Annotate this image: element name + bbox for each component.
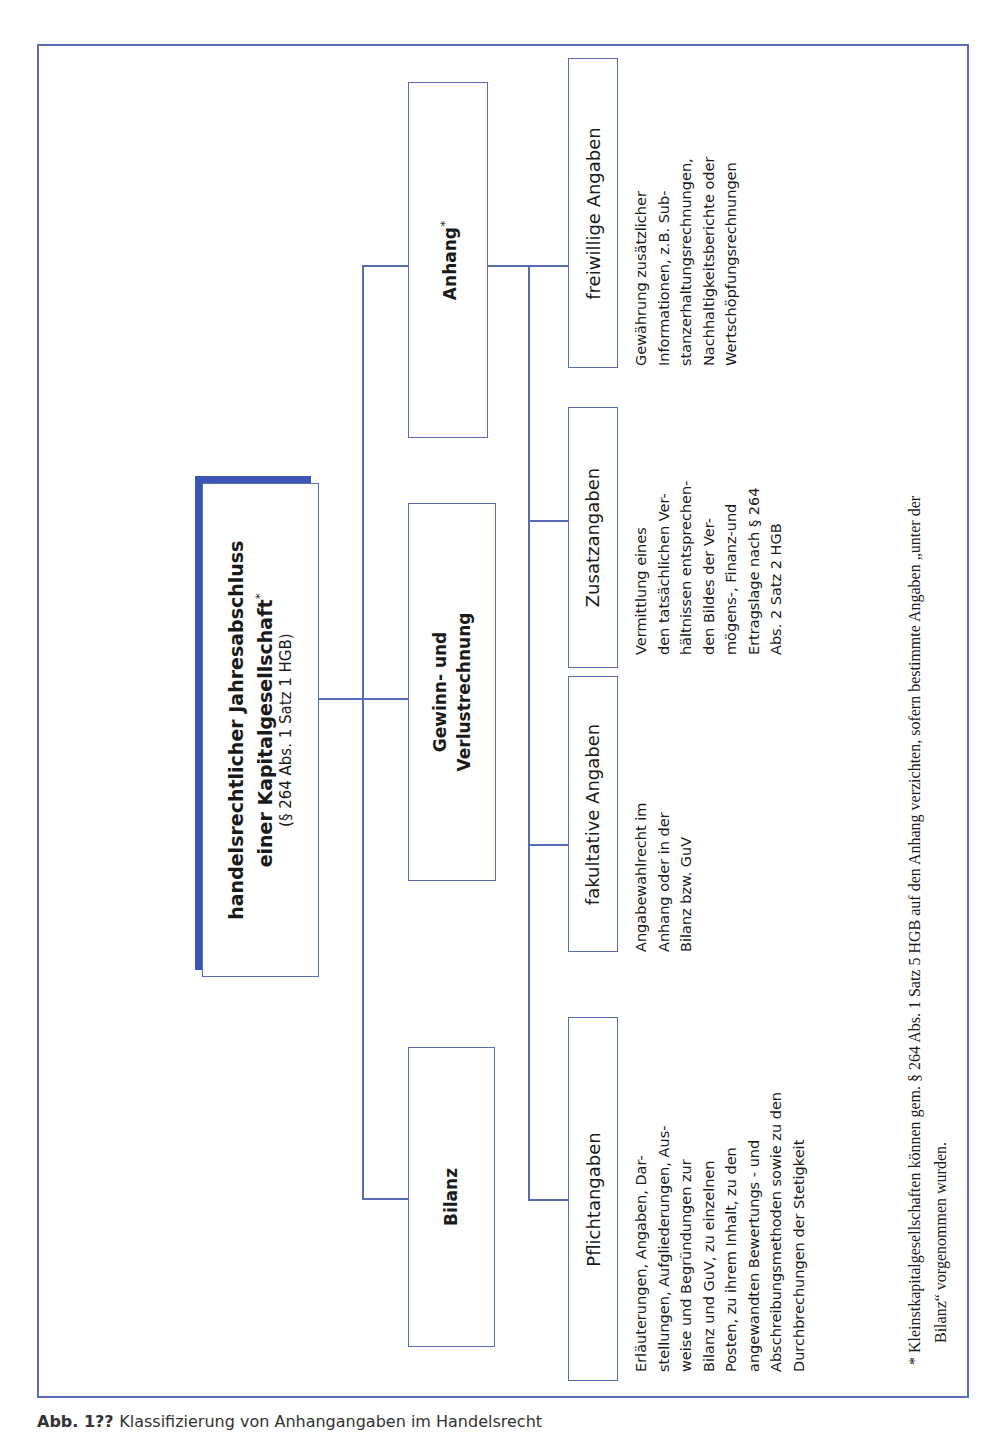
box-pflichtangaben-label: Pflichtangaben [568, 1017, 618, 1381]
connector-anhang [362, 265, 409, 267]
caption-label: Abb. 1?? [37, 1412, 114, 1431]
box-zusatzangaben-label: Zusatzangaben [568, 407, 618, 668]
connector-bilanz [362, 1198, 409, 1200]
diagram-frame [37, 44, 969, 1398]
box-freiwillige-angaben-label: freiwillige Angaben [568, 58, 618, 368]
connector-trunk-l3 [528, 265, 530, 1200]
box-bilanz-label: Bilanz [408, 1047, 495, 1347]
box-fakultative-angaben-label: fakultative Angaben [568, 676, 618, 952]
root-title-line1: handelsrechtlicher Jahresabschluss [224, 540, 248, 919]
connector-root [318, 698, 363, 700]
caption-text: Klassifizierung von Anhangangaben im Han… [119, 1412, 542, 1431]
root-title-line2: einer Kapitalgesellschaft* [248, 540, 276, 919]
connector-pflicht [528, 1199, 569, 1201]
connector-guv [362, 698, 409, 700]
connector-zusatz [528, 520, 569, 522]
root-subtitle: (§ 264 Abs. 1 Satz 1 HGB) [277, 540, 297, 919]
footnote-line1: * Kleinstkapitalgesellschaften können ge… [902, 496, 928, 1365]
figure-caption: Abb. 1?? Klassifizierung von Anhangangab… [37, 1412, 542, 1431]
connector-trunk-l2 [362, 265, 364, 1199]
connector-fakultativ [528, 844, 569, 846]
footnote-line2: Bilanz“ vorgenommen wurden. [928, 496, 954, 1365]
box-guv-label: Gewinn- und Verlustrechnung [408, 503, 496, 881]
root-box-label: handelsrechtlicher Jahresabschluss einer… [202, 483, 319, 977]
box-anhang-label: Anhang* [408, 82, 488, 438]
